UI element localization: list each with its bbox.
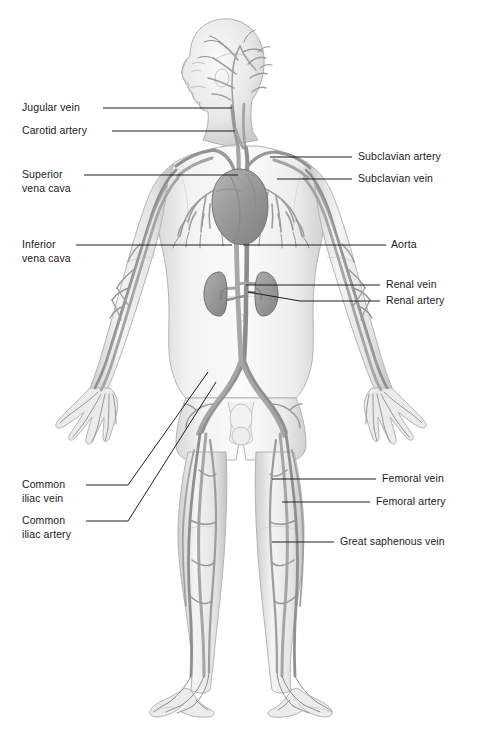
label-superior-vena-cava-line2: vena cava (22, 182, 71, 196)
label-great-saphenous-vein: Great saphenous vein (340, 535, 445, 549)
label-common-iliac-artery: Commoniliac artery (22, 514, 71, 541)
label-subclavian-vein: Subclavian vein (358, 172, 433, 186)
label-renal-artery: Renal artery (386, 294, 444, 308)
label-inferior-vena-cava: Inferiorvena cava (22, 238, 71, 265)
label-common-iliac-artery-line2: iliac artery (22, 528, 71, 542)
label-superior-vena-cava: Superiorvena cava (22, 168, 71, 195)
label-aorta: Aorta (391, 238, 417, 252)
label-subclavian-artery: Subclavian artery (358, 150, 441, 164)
label-renal-vein: Renal vein (386, 278, 437, 292)
diagram-canvas: Jugular veinCarotid arterySuperiorvena c… (0, 0, 481, 748)
label-femoral-vein: Femoral vein (382, 472, 444, 486)
label-jugular-vein: Jugular vein (22, 101, 80, 115)
label-femoral-artery: Femoral artery (376, 495, 446, 509)
label-common-iliac-vein: Commoniliac vein (22, 478, 65, 505)
label-carotid-artery: Carotid artery (22, 124, 87, 138)
label-common-iliac-vein-line2: iliac vein (22, 492, 65, 506)
label-inferior-vena-cava-line2: vena cava (22, 252, 71, 266)
